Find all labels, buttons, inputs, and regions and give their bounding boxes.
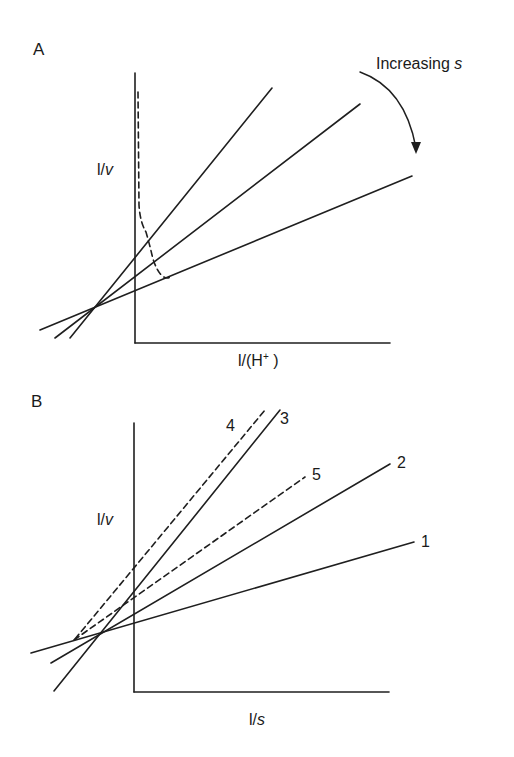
line-label-3: 3 <box>280 411 289 427</box>
increasing-s-annotation: Increasing s <box>376 56 462 72</box>
y-label-prefix: l/ <box>97 161 105 178</box>
panel-b-line-3 <box>54 410 280 691</box>
panel-a-y-axis-label: l/v <box>97 162 113 178</box>
y-label-prefix: l/ <box>97 511 105 528</box>
line-label-5: 5 <box>312 467 321 483</box>
x-label-var: s <box>257 711 265 728</box>
diagram-canvas <box>0 0 514 757</box>
x-label-prefix: l/ <box>249 711 257 728</box>
line-label-1: 1 <box>421 534 430 550</box>
panel-a-label: A <box>33 41 44 58</box>
annotation-prefix: Increasing <box>376 55 454 72</box>
y-label-var: v <box>105 161 113 178</box>
y-label-var: v <box>105 511 113 528</box>
x-label-suffix: ) <box>269 352 279 369</box>
panel-a-line-shallow <box>40 176 412 330</box>
panel-a-dashed-curve <box>138 92 171 278</box>
increasing-s-arrow <box>360 72 416 148</box>
x-label-prefix: l/(H <box>238 352 263 369</box>
panel-b-line-1 <box>31 542 414 653</box>
panel-a-line-mid <box>55 104 360 338</box>
line-label-4: 4 <box>226 418 235 434</box>
panel-b-line-5 <box>74 477 305 640</box>
panel-a-x-axis-label: l/(H+ ) <box>238 353 279 369</box>
panel-b-label: B <box>31 393 42 410</box>
arrowhead-icon <box>411 142 421 154</box>
line-label-2: 2 <box>397 455 406 471</box>
panel-b-y-axis-label: l/v <box>97 512 113 528</box>
panel-b-x-axis-label: l/s <box>249 712 265 728</box>
panel-a-line-steep <box>70 88 272 338</box>
annotation-var: s <box>454 55 462 72</box>
